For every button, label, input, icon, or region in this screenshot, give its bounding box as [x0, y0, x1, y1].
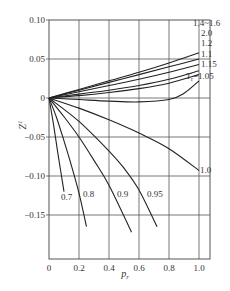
y-tick-label: 0 [41, 93, 46, 103]
series-label: 1.15 [201, 59, 217, 69]
series-label: 1.1 [201, 49, 212, 59]
plot-frame [49, 20, 210, 259]
series-label: 0.7 [61, 192, 73, 202]
series-label: 1.2 [201, 38, 212, 48]
series-line-1-1 [49, 71, 199, 98]
x-tick-label: 0.8 [163, 263, 175, 273]
y-tick-label: 0.05 [29, 54, 45, 64]
chart: 00.20.40.60.81.00.100.050−0.05−0.10−0.15… [0, 0, 230, 291]
x-tick-label: 0.2 [73, 263, 84, 273]
series-label: 1.4~1.6 [193, 18, 221, 28]
series-line-1-0 [49, 98, 199, 171]
series-label: 0.95 [147, 189, 163, 199]
x-tick-label: 1.0 [193, 263, 205, 273]
series-line-0-9 [49, 98, 132, 232]
curves [49, 53, 199, 232]
series-line-0-7 [49, 98, 64, 192]
x-tick-label: 0 [47, 263, 52, 273]
y-tick-label: −0.10 [24, 171, 45, 181]
x-tick-label: 0.6 [133, 263, 145, 273]
series-label: 0.8 [83, 189, 95, 199]
y-axis-title: Z1 [16, 120, 28, 129]
series-label: 1.0 [200, 165, 212, 175]
y-tick-label: −0.05 [24, 132, 45, 142]
series-line-2-0 [49, 59, 199, 98]
series-label: 2.0 [201, 28, 213, 38]
series-label: 0.9 [117, 189, 129, 199]
x-axis-title: pr [120, 268, 129, 281]
series-line-0-8 [49, 98, 87, 227]
series-label: Tr=1.05 [186, 71, 214, 82]
y-tick-label: 0.10 [29, 15, 45, 25]
grid [46, 20, 210, 259]
y-tick-label: −0.15 [24, 210, 45, 220]
tick-labels: 00.20.40.60.81.00.100.050−0.05−0.10−0.15 [24, 15, 205, 273]
x-tick-label: 0.4 [103, 263, 115, 273]
